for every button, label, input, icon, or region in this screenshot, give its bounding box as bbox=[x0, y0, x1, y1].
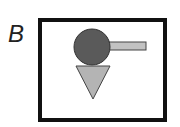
diagram-canvas bbox=[0, 0, 180, 127]
bar-shape bbox=[109, 42, 146, 50]
circle-shape bbox=[74, 29, 110, 65]
